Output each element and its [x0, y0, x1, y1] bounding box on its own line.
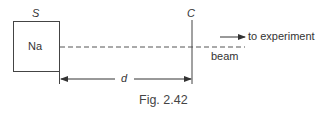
beam-label: beam	[211, 51, 239, 62]
direction-label: to experiment	[248, 31, 315, 42]
distance-label: d	[121, 73, 127, 84]
source-element-label: Na	[28, 41, 42, 52]
chopper-label: C	[187, 8, 195, 19]
source-label: S	[32, 8, 39, 19]
figure-caption: Fig. 2.42	[139, 94, 188, 107]
